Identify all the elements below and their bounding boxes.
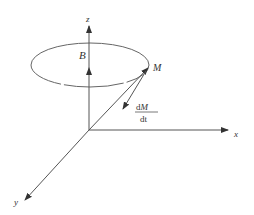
precession-orbit	[31, 43, 149, 87]
x-axis-label: x	[233, 129, 238, 139]
b-field-label: B	[79, 49, 86, 61]
z-axis-label: z	[85, 14, 90, 24]
dm-dt-numerator: dM	[136, 102, 149, 112]
precession-diagram: z x y B M dM dt	[0, 0, 254, 215]
m-vector-label: M	[152, 62, 162, 73]
y-axis-label: y	[13, 197, 18, 207]
dm-dt-denominator: dt	[140, 114, 148, 124]
y-axis	[25, 130, 89, 200]
b-field-arrowhead	[86, 67, 92, 75]
